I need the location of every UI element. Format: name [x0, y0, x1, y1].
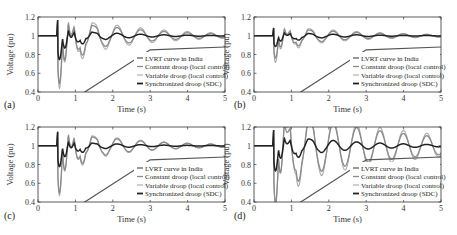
legend-item-label: Synchronized droop (SDC) [145, 80, 222, 88]
y-tick-label: 0.8 [25, 51, 35, 60]
x-axis-label: Time (s) [117, 214, 146, 224]
x-tick-label: 5 [223, 94, 227, 103]
y-tick-label: 0.6 [25, 69, 35, 78]
x-tick-label: 3 [364, 204, 368, 213]
legend-item-label: Constant droop (local control) [145, 63, 230, 71]
legend-item-label: LVRT curve in India [361, 55, 420, 63]
x-tick-label: 3 [148, 94, 152, 103]
y-tick-label: 1.2 [25, 123, 35, 132]
legend-item-label: Synchronized droop (SDC) [145, 190, 222, 198]
y-tick-label: 0.4 [241, 198, 251, 207]
x-tick-label: 2 [327, 204, 331, 213]
x-tick-label: 4 [186, 94, 190, 103]
legend-item-label: Variable droop (local control) [361, 72, 445, 80]
x-tick-label: 1 [73, 204, 77, 213]
x-tick-label: 1 [73, 94, 77, 103]
y-axis-label: Voltage (pu) [5, 143, 15, 185]
y-tick-label: 0.8 [241, 51, 251, 60]
x-axis-label: Time (s) [333, 214, 362, 224]
y-tick-label: 1 [31, 142, 35, 151]
x-tick-label: 2 [111, 94, 115, 103]
x-tick-label: 5 [223, 204, 227, 213]
x-tick-label: 4 [402, 94, 406, 103]
x-tick-label: 0 [36, 204, 40, 213]
y-axis-label: Voltage (pu) [221, 143, 231, 185]
x-tick-label: 0 [36, 94, 40, 103]
x-axis-label: Time (s) [117, 104, 146, 114]
legend-item-label: Constant droop (local control) [361, 63, 446, 71]
legend-item-label: Constant droop (local control) [145, 173, 230, 181]
y-tick-label: 1 [31, 32, 35, 41]
x-tick-label: 3 [364, 94, 368, 103]
panel-label: (d) [234, 210, 246, 222]
legend-item-label: LVRT curve in India [145, 165, 204, 173]
legend: LVRT curve in IndiaConstant droop (local… [134, 162, 230, 200]
x-tick-label: 0 [252, 204, 256, 213]
panel-label: (c) [4, 210, 15, 222]
x-tick-label: 2 [327, 94, 331, 103]
x-tick-label: 1 [289, 94, 293, 103]
legend-item-label: Variable droop (local control) [361, 182, 445, 190]
legend-item-label: LVRT curve in India [361, 165, 420, 173]
x-tick-label: 5 [439, 94, 443, 103]
panel-label: (b) [234, 99, 246, 111]
x-tick-label: 5 [439, 204, 443, 213]
chart-panel-d: 0123450.40.60.811.2Time (s)Voltage (pu)(… [221, 116, 446, 235]
y-tick-label: 0.6 [25, 179, 35, 188]
x-tick-label: 2 [111, 204, 115, 213]
legend: LVRT curve in IndiaConstant droop (local… [350, 52, 446, 90]
y-tick-label: 1.2 [241, 13, 251, 22]
chart-panel-a: 0123450.40.60.811.2Time (s)Voltage (pu)(… [4, 13, 230, 130]
y-tick-label: 1.2 [241, 123, 251, 132]
legend-item-label: Constant droop (local control) [361, 173, 446, 181]
y-tick-label: 0.4 [25, 88, 35, 97]
y-tick-label: 0.6 [241, 179, 251, 188]
legend-item-label: Variable droop (local control) [145, 182, 229, 190]
y-tick-label: 0.6 [241, 69, 251, 78]
y-axis-label: Voltage (pu) [221, 33, 231, 75]
y-tick-label: 0.8 [25, 161, 35, 170]
x-tick-label: 3 [148, 204, 152, 213]
chart-panel-c: 0123450.40.60.811.2Time (s)Voltage (pu)(… [4, 123, 230, 235]
panel-label: (a) [4, 99, 15, 111]
x-axis-label: Time (s) [333, 104, 362, 114]
legend-item-label: Synchronized droop (SDC) [361, 80, 438, 88]
y-tick-label: 1 [247, 142, 251, 151]
legend-item-label: Synchronized droop (SDC) [361, 190, 438, 198]
chart-panel-b: 0123450.40.60.811.2Time (s)Voltage (pu)(… [221, 13, 446, 130]
y-tick-label: 0.4 [25, 198, 35, 207]
figure: 0123450.40.60.811.2Time (s)Voltage (pu)(… [0, 0, 457, 235]
y-tick-label: 0.8 [241, 161, 251, 170]
y-tick-label: 0.4 [241, 88, 251, 97]
y-axis-label: Voltage (pu) [5, 33, 15, 75]
legend-item-label: Variable droop (local control) [145, 72, 229, 80]
legend: LVRT curve in IndiaConstant droop (local… [350, 162, 446, 200]
legend-item-label: LVRT curve in India [145, 55, 204, 63]
x-tick-label: 1 [289, 204, 293, 213]
x-tick-label: 4 [186, 204, 190, 213]
y-tick-label: 1.2 [25, 13, 35, 22]
legend: LVRT curve in IndiaConstant droop (local… [134, 52, 230, 90]
y-tick-label: 1 [247, 32, 251, 41]
x-tick-label: 4 [402, 204, 406, 213]
x-tick-label: 0 [252, 94, 256, 103]
